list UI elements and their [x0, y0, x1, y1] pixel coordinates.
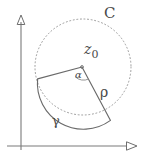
figure-container: C z0 α ρ γ [0, 0, 147, 166]
radius-label-rho: ρ [100, 85, 108, 99]
circle-label-C: C [104, 6, 115, 21]
sector-diagram [0, 0, 147, 166]
vertical-axis [17, 15, 25, 150]
arc-label-gamma: γ [52, 114, 60, 127]
center-point-subscript: 0 [91, 48, 98, 61]
center-point-label: z0 [84, 42, 98, 60]
angle-label-alpha: α [75, 70, 82, 80]
horizontal-axis [7, 142, 137, 150]
horizontal-axis-arrowhead-icon [127, 142, 138, 150]
